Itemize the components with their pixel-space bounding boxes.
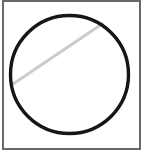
drawing-canvas [0, 0, 146, 161]
shape-drawing [0, 0, 146, 161]
